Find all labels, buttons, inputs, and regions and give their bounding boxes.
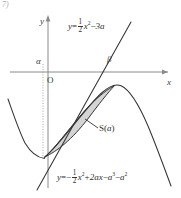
par-eq-leading-sign: − <box>66 172 71 182</box>
origin-label: O <box>47 76 54 85</box>
x-axis-label: x <box>167 78 171 87</box>
parabola-equation-label: y=−12x2+2ax−a3−a2 <box>57 170 127 186</box>
region-label-prefix: S( <box>99 123 107 133</box>
y-axis-label: y <box>40 17 44 26</box>
line-eq-frac-numerator: 1 <box>78 19 84 26</box>
par-eq-fraction: 12 <box>72 170 78 186</box>
line-equation-label: y=12x2−3a <box>68 19 105 35</box>
secant-line <box>37 22 131 190</box>
par-eq-a-squared-exponent: 2 <box>125 171 128 177</box>
s-a-leader-line <box>85 119 98 128</box>
par-eq-term-2ax: 2ax <box>90 172 103 182</box>
alpha-tick-label: α <box>36 57 41 66</box>
par-eq-frac-denominator: 2 <box>72 177 78 185</box>
y-axis-arrowhead <box>46 15 51 22</box>
x-axis-arrowhead <box>162 70 168 75</box>
line-eq-equals: = <box>72 21 77 31</box>
beta-tick-label: β <box>107 55 111 64</box>
par-eq-frac-numerator: 1 <box>72 170 78 177</box>
region-label-suffix: ) <box>112 123 115 133</box>
region-area-label: S(a) <box>99 124 115 133</box>
axes-group <box>10 15 168 188</box>
line-eq-fraction: 12 <box>78 19 84 35</box>
corner-mark: 7) <box>2 0 9 10</box>
line-eq-tail: 3a <box>96 21 105 31</box>
upward-parabola-curve <box>8 99 45 159</box>
line-eq-frac-denominator: 2 <box>78 26 84 34</box>
